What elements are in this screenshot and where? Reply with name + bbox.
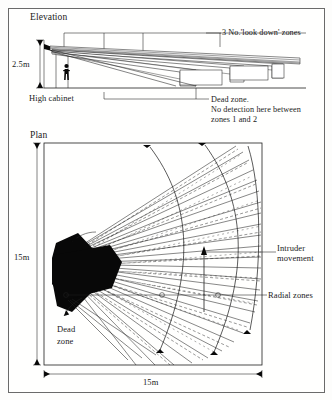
plan-width-dimension-line — [44, 370, 262, 378]
diagram-page: Elevation 2.5m High cabinet 3 No.'look d… — [0, 0, 332, 400]
plan-drawing — [0, 0, 332, 400]
radial-zone-arc-3 — [248, 146, 259, 330]
intruder-movement-arrow — [201, 246, 276, 312]
plan-dead-zone-wedge — [68, 299, 156, 360]
sensor-origin-mass — [52, 233, 122, 312]
plan-depth-dimension-line — [33, 143, 41, 365]
